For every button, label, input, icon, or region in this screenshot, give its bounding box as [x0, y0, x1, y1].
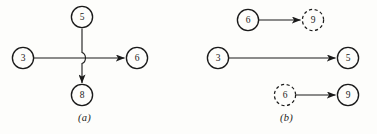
node-b-row3-source-label: 6: [283, 90, 288, 100]
node-a-3[interactable]: 3: [12, 47, 33, 68]
node-b-row1-source-6[interactable]: 6: [237, 9, 258, 30]
node-b-row3-target-9[interactable]: 9: [337, 84, 358, 105]
node-b-row1-target-label: 9: [311, 15, 316, 25]
edge-5-to-8: [82, 29, 85, 84]
panel-a: 5 3 6 8: [0, 0, 190, 134]
node-a-3-label: 3: [21, 53, 26, 63]
node-b-row1-target-9[interactable]: 9: [302, 9, 323, 30]
node-a-8[interactable]: 8: [71, 84, 92, 105]
edge-5-to-8-line-with-hop: [82, 29, 85, 84]
node-a-6[interactable]: 6: [126, 47, 147, 68]
figure-root: 5 3 6 8: [0, 0, 377, 134]
node-a-5[interactable]: 5: [71, 6, 92, 27]
node-a-5-label: 5: [80, 12, 85, 22]
node-b-row2-source-3[interactable]: 3: [207, 47, 228, 68]
panel-a-caption: (a): [78, 112, 91, 123]
node-a-8-label: 8: [80, 90, 85, 100]
node-b-row2-source-label: 3: [216, 53, 221, 63]
panel-b-caption: (b): [280, 112, 293, 123]
node-a-6-label: 6: [135, 53, 140, 63]
node-b-row3-source-6[interactable]: 6: [274, 84, 295, 105]
node-b-row2-target-label: 5: [346, 53, 351, 63]
node-b-row3-target-label: 9: [346, 90, 351, 100]
node-b-row2-target-5[interactable]: 5: [337, 47, 358, 68]
node-b-row1-source-label: 6: [246, 15, 251, 25]
panel-a-canvas: 5 3 6 8: [0, 0, 190, 134]
